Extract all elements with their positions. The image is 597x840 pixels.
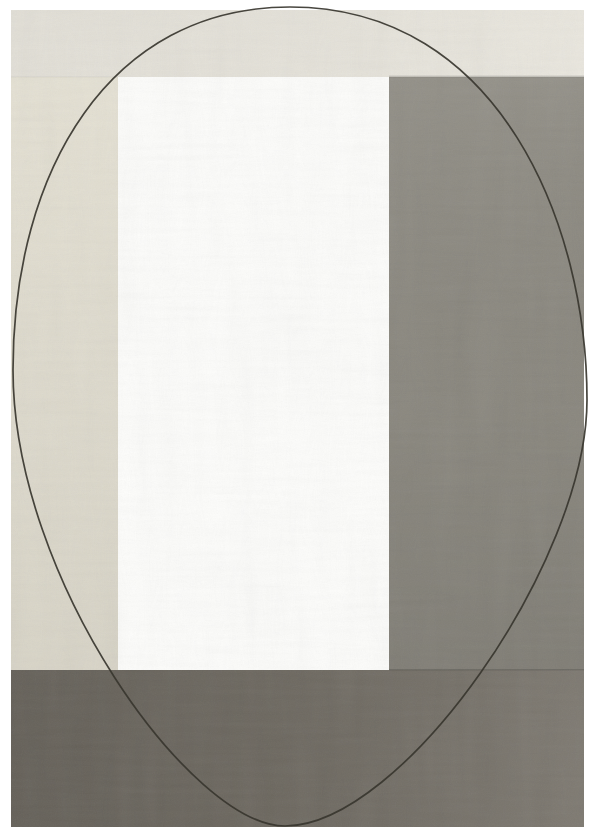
artwork-reproduction [0, 0, 597, 840]
artwork-canvas [0, 0, 597, 840]
texture-grain [11, 10, 584, 827]
